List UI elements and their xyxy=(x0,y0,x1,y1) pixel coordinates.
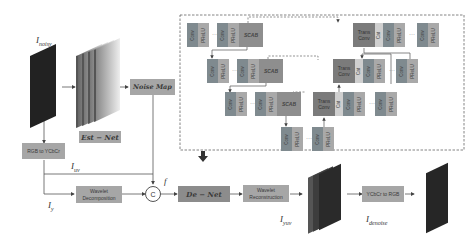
ellipsis: ··· xyxy=(409,31,415,37)
conv-prelu-block: Conv PReLU xyxy=(312,127,334,151)
i-uv-label: Iuv xyxy=(71,161,80,173)
transconv-cat-conv-block: Trans Conv Cat Conv PReLU xyxy=(333,59,385,83)
ycbcr-to-rgb-box: YCbCr to RGB xyxy=(362,186,404,202)
conv-prelu-scab-block: Conv PReLU SCAB xyxy=(237,59,283,83)
rgb-to-ycbcr-box: RGB to YCbCr xyxy=(22,143,65,159)
f-label: f xyxy=(164,176,167,186)
noisy-image xyxy=(30,44,56,128)
yuv-image-stack xyxy=(308,165,348,235)
est-net-box: Est − Net xyxy=(79,131,121,143)
transconv-cat-conv-block: Trans Conv Cat Conv PReLU xyxy=(313,92,365,116)
conv-prelu-scab-block: Conv PReLU SCAB xyxy=(217,23,263,47)
i-y-label: Iy xyxy=(48,200,54,212)
conv-prelu-block: Conv PReLU xyxy=(417,23,439,47)
conv-prelu-block: Conv PReLU xyxy=(187,23,209,47)
de-net-box: De − Net xyxy=(178,186,230,202)
i-yuv-label: Iyuv xyxy=(280,214,291,226)
noisy-image-label: Inoisy xyxy=(36,35,52,47)
wavelet-reconstruction-box: Wavelet Reconstruction xyxy=(243,185,289,202)
conv-prelu-block: Conv PReLU xyxy=(281,127,303,151)
ellipsis: ··· xyxy=(389,67,395,73)
denoised-image xyxy=(426,163,448,233)
i-denoise-label: Idenoise xyxy=(366,214,387,226)
conv-prelu-block: Conv PReLU xyxy=(207,59,229,83)
conv-prelu-block: Conv PReLU xyxy=(225,92,247,116)
conv-prelu-scab-block: Conv PReLU SCAB xyxy=(255,92,301,116)
noise-map-box: Noise Map xyxy=(130,79,175,95)
concat-node: C xyxy=(145,186,161,202)
conv-prelu-block: Conv PReLU xyxy=(396,59,418,83)
conv-prelu-block: Conv PReLU xyxy=(375,92,397,116)
est-net-feature-stack xyxy=(76,44,118,124)
transconv-cat-conv-block: Trans Conv Cat Conv PReLU xyxy=(353,23,405,47)
wavelet-decomposition-box: Wavelet Decomposition xyxy=(76,186,122,203)
